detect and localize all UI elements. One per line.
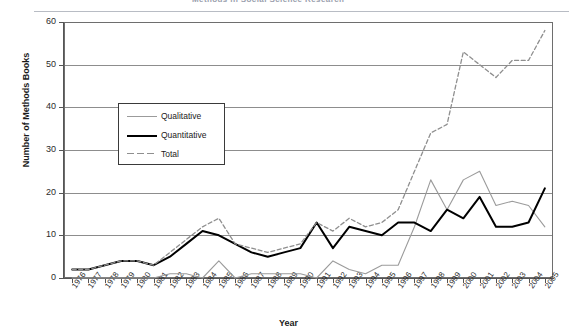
legend-label-qualitative: Qualitative	[161, 111, 201, 121]
series-line-quantitative	[72, 188, 545, 269]
chart-page: Methods in Social Science Research Numbe…	[0, 0, 569, 336]
chart-legend: Qualitative Quantitative Total	[118, 103, 225, 165]
legend-label-total: Total	[161, 149, 179, 159]
chart-series-layer	[0, 0, 569, 336]
legend-swatch-quantitative	[127, 135, 157, 137]
legend-label-quantitative: Quantitative	[161, 130, 206, 140]
legend-swatch-qualitative	[127, 116, 157, 117]
